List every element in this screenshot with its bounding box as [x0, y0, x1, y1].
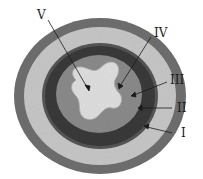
label-v: V	[36, 8, 46, 22]
label-iii: III	[170, 73, 184, 87]
label-i: I	[181, 126, 186, 140]
cross-section-diagram: V IV III II I	[0, 0, 203, 179]
label-iv: IV	[154, 26, 168, 40]
label-ii: II	[177, 101, 187, 115]
